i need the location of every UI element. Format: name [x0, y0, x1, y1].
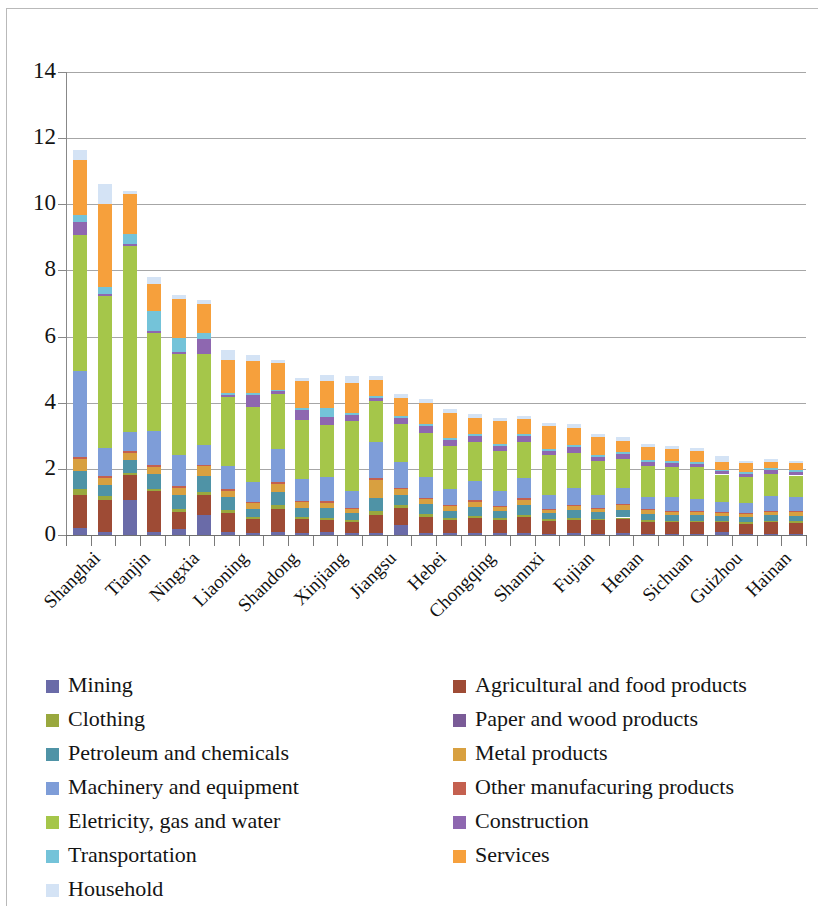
- bar-unlabeled-13[interactable]: [394, 394, 408, 535]
- bar-shandong[interactable]: [271, 360, 285, 535]
- legend-item[interactable]: Mining: [46, 668, 436, 702]
- bar-jiangsu[interactable]: [369, 376, 383, 535]
- bar-segment: [493, 507, 507, 511]
- bar-segment: [394, 418, 408, 423]
- bar-segment: [715, 516, 729, 521]
- bar-tianjin[interactable]: [123, 191, 137, 535]
- bar-segment: [715, 471, 729, 474]
- bar-segment: [764, 521, 778, 523]
- bar-segment: [73, 160, 87, 215]
- legend-label: Services: [475, 843, 550, 867]
- legend-item[interactable]: Services: [453, 838, 813, 872]
- bar-xinjiang[interactable]: [320, 375, 334, 535]
- bar-shanghai[interactable]: [73, 150, 87, 535]
- bar-segment: [394, 488, 408, 489]
- x-axis-tick: [214, 536, 215, 546]
- bar-chongqing[interactable]: [468, 414, 482, 535]
- bar-ningxia[interactable]: [172, 295, 186, 535]
- legend-item[interactable]: Machinery and equipment: [46, 770, 436, 804]
- bar-segment: [443, 440, 457, 445]
- bar-unlabeled-27[interactable]: [739, 461, 753, 535]
- legend-item[interactable]: Household: [46, 872, 436, 906]
- bar-segment: [641, 444, 655, 447]
- bar-segment: [641, 462, 655, 466]
- bar-unlabeled-25[interactable]: [690, 448, 704, 535]
- legend-item[interactable]: Transportation: [46, 838, 436, 872]
- bar-liaoning[interactable]: [221, 350, 235, 535]
- bar-segment: [567, 424, 581, 427]
- bar-sichuan[interactable]: [665, 446, 679, 535]
- bar-segment: [98, 287, 112, 294]
- legend-item[interactable]: Other manufacuring products: [453, 770, 813, 804]
- bar-segment: [641, 447, 655, 460]
- x-axis-tick: [387, 536, 388, 546]
- bar-unlabeled-29[interactable]: [789, 461, 803, 535]
- bar-unlabeled-3[interactable]: [147, 277, 161, 535]
- bar-segment: [394, 508, 408, 525]
- bar-hainan[interactable]: [764, 459, 778, 535]
- bar-segment: [221, 497, 235, 510]
- bar-segment: [345, 513, 359, 520]
- bar-unlabeled-15[interactable]: [443, 409, 457, 535]
- legend-label: Metal products: [475, 741, 608, 765]
- bar-segment: [123, 460, 137, 473]
- bar-shannxi[interactable]: [517, 416, 531, 535]
- bar-segment: [73, 371, 87, 457]
- y-axis-tick-label: 4: [16, 390, 56, 413]
- legend-item[interactable]: Construction: [453, 804, 813, 838]
- bar-segment: [369, 478, 383, 480]
- bar-segment: [172, 455, 186, 486]
- bar-unlabeled-11[interactable]: [345, 376, 359, 535]
- bar-unlabeled-17[interactable]: [493, 418, 507, 535]
- bar-segment: [345, 520, 359, 522]
- bar-segment: [591, 457, 605, 461]
- bar-segment: [246, 361, 260, 392]
- bar-segment: [690, 499, 704, 511]
- legend-item[interactable]: Agricultural and food products: [453, 668, 813, 702]
- bar-segment: [739, 477, 753, 503]
- x-axis-tick: [115, 536, 116, 546]
- bar-hebei[interactable]: [419, 399, 433, 535]
- bar-segment: [443, 438, 457, 440]
- bar-segment: [123, 473, 137, 476]
- bar-segment: [172, 495, 186, 509]
- bar-segment: [542, 510, 556, 513]
- bar-segment: [641, 514, 655, 521]
- legend-item[interactable]: Clothing: [46, 702, 436, 736]
- bar-unlabeled-5[interactable]: [197, 300, 211, 535]
- bar-unlabeled-7[interactable]: [246, 355, 260, 535]
- bar-segment: [715, 456, 729, 463]
- bar-unlabeled-1[interactable]: [98, 184, 112, 535]
- bar-segment: [419, 477, 433, 498]
- x-axis-tick: [609, 536, 610, 546]
- bar-segment: [616, 519, 630, 533]
- legend-item[interactable]: Eletricity, gas and water: [46, 804, 436, 838]
- bar-unlabeled-23[interactable]: [641, 444, 655, 535]
- bar-segment: [369, 442, 383, 478]
- bar-segment: [320, 375, 334, 382]
- bar-unlabeled-21[interactable]: [591, 434, 605, 535]
- bar-series-container: [66, 72, 806, 535]
- legend-item[interactable]: Metal products: [453, 736, 813, 770]
- bar-segment: [98, 496, 112, 500]
- bar-unlabeled-19[interactable]: [542, 423, 556, 535]
- bar-segment: [394, 398, 408, 417]
- legend-item[interactable]: Petroleum and chemicals: [46, 736, 436, 770]
- bar-unlabeled-9[interactable]: [295, 378, 309, 535]
- bar-guizhou[interactable]: [715, 456, 729, 535]
- bar-segment: [419, 424, 433, 426]
- bar-segment: [172, 488, 186, 495]
- bar-segment: [468, 414, 482, 417]
- bar-henan[interactable]: [616, 437, 630, 535]
- legend-item[interactable]: Paper and wood products: [453, 702, 813, 736]
- bar-segment: [98, 478, 112, 485]
- bar-segment: [443, 520, 457, 533]
- bar-segment: [468, 481, 482, 500]
- bar-segment: [715, 502, 729, 512]
- bar-segment: [493, 418, 507, 421]
- bar-segment: [271, 363, 285, 389]
- bar-fujian[interactable]: [567, 424, 581, 535]
- bar-segment: [493, 446, 507, 451]
- bar-segment: [123, 432, 137, 452]
- bar-segment: [567, 520, 581, 533]
